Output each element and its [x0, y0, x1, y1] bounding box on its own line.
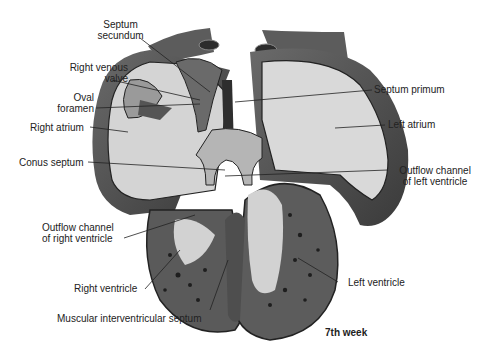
label-conus-septum: Conus septum — [19, 157, 83, 168]
figure-caption: 7th week — [325, 327, 367, 338]
label-line: Outflow channel — [390, 165, 480, 176]
label-line: secundum — [88, 30, 153, 41]
label-line: Septum — [88, 19, 153, 30]
label-line: valve — [40, 73, 128, 84]
label-septum-primum: Septum primum — [374, 84, 445, 95]
label-left-atrium: Left atrium — [388, 119, 435, 130]
label-left-ventricle: Left ventricle — [348, 277, 405, 288]
vessel-lumen-left — [199, 40, 219, 50]
label-line: of left ventricle — [390, 176, 480, 187]
label-septum-secundum: Septum secundum — [88, 19, 153, 41]
label-outflow-rv: Outflow channel of right ventricle — [42, 222, 114, 244]
label-line: of right ventricle — [42, 233, 114, 244]
label-line: foramen — [40, 103, 94, 114]
label-muscular-iv-septum: Muscular interventricular septum — [57, 313, 202, 324]
label-line: Oval — [40, 92, 94, 103]
heart-diagram: Septum secundum Right venous valve Oval … — [0, 0, 482, 349]
label-right-ventricle: Right ventricle — [74, 283, 137, 294]
label-right-venous-valve: Right venous valve — [40, 62, 128, 84]
label-oval-foramen: Oval foramen — [40, 92, 94, 114]
label-outflow-lv: Outflow channel of left ventricle — [390, 165, 480, 187]
label-line: Right venous — [40, 62, 128, 73]
label-right-atrium: Right atrium — [30, 122, 84, 133]
label-line: Outflow channel — [42, 222, 114, 233]
left-ventricle-lumen — [248, 189, 284, 293]
